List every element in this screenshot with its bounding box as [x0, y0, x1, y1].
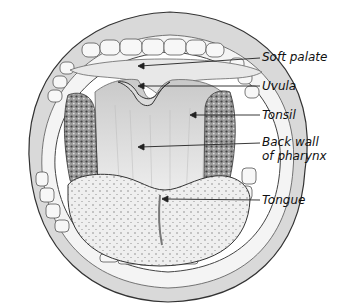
label-soft-palate: Soft palate	[262, 51, 327, 64]
label-tonsil: Tonsil	[262, 109, 296, 122]
label-of-pharynx: of pharynx	[262, 150, 327, 163]
label-back-wall: Back wall	[262, 136, 319, 149]
label-uvula: Uvula	[262, 80, 296, 93]
label-tongue: Tongue	[262, 194, 305, 207]
